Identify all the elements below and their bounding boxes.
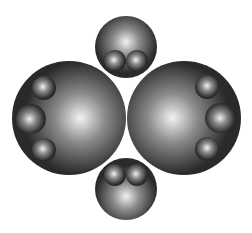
left-inner-bottom <box>32 138 56 162</box>
sphere-diagram <box>0 0 252 233</box>
left-inner-top <box>32 76 56 100</box>
top-inner-right <box>126 50 148 72</box>
spheres-group <box>12 16 241 220</box>
right-inner-bottom <box>195 137 219 161</box>
top-inner-left <box>104 50 126 72</box>
bottom-inner-left <box>104 164 126 186</box>
bottom-sphere <box>95 158 157 220</box>
right-inner-middle <box>205 103 235 133</box>
right-inner-top <box>195 75 219 99</box>
top-sphere <box>95 16 157 78</box>
left-inner-middle <box>16 104 46 134</box>
bottom-inner-right <box>126 164 148 186</box>
